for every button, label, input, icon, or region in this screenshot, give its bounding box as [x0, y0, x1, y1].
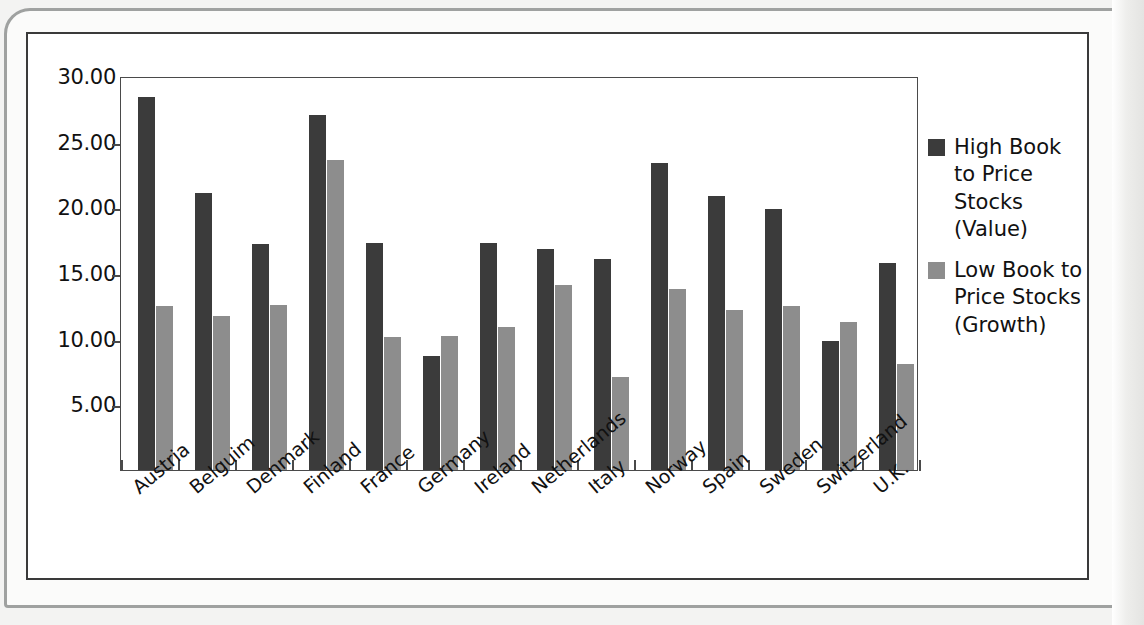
bar-value	[537, 249, 554, 470]
bar-growth	[327, 160, 344, 470]
page-edge-shadow	[1112, 0, 1144, 625]
bar-growth	[669, 289, 686, 470]
gray-swatch-icon	[928, 262, 945, 279]
bar-value	[651, 163, 668, 470]
bar-value	[366, 243, 383, 470]
bar-value	[252, 244, 269, 470]
dark-swatch-icon	[928, 139, 945, 156]
bar-value	[138, 97, 155, 470]
bar-value	[423, 356, 440, 470]
plot-area	[120, 77, 918, 471]
y-axis-tick-label: 20.00	[30, 196, 116, 220]
y-axis-tick-label: 25.00	[30, 131, 116, 155]
bar-chart: 5.0010.0015.0020.0025.0030.00 AustriaBel…	[28, 34, 1091, 582]
legend-label: High Book to Price Stocks (Value)	[954, 134, 1088, 243]
x-axis-tick-mark	[919, 460, 921, 471]
y-axis-tick-label: 15.00	[30, 262, 116, 286]
bar-growth	[726, 310, 743, 470]
y-axis-tick-label: 10.00	[30, 328, 116, 352]
bar-value	[309, 115, 326, 470]
bar-value	[195, 193, 212, 470]
x-axis-tick-mark	[634, 460, 636, 471]
y-axis-tick-mark	[112, 209, 121, 211]
y-axis-tick-label: 30.00	[30, 65, 116, 89]
legend-entry: High Book to Price Stocks (Value)	[928, 134, 1088, 243]
x-axis-tick-mark	[121, 460, 123, 471]
y-axis-tick-label: 5.00	[30, 393, 116, 417]
figure-frame: 5.0010.0015.0020.0025.0030.00 AustriaBel…	[26, 32, 1089, 580]
y-axis-tick-mark	[112, 144, 121, 146]
scanned-page: 5.0010.0015.0020.0025.0030.00 AustriaBel…	[0, 0, 1144, 625]
y-axis-labels: 5.0010.0015.0020.0025.0030.00	[28, 77, 116, 471]
bar-value	[708, 196, 725, 470]
y-axis-tick-mark	[112, 275, 121, 277]
y-axis-tick-mark	[112, 341, 121, 343]
legend-label: Low Book to Price Stocks (Growth)	[954, 257, 1088, 339]
y-axis-tick-mark	[112, 406, 121, 408]
chart-legend: High Book to Price Stocks (Value)Low Boo…	[928, 134, 1088, 353]
bar-growth	[555, 285, 572, 470]
bar-value	[765, 209, 782, 470]
legend-entry: Low Book to Price Stocks (Growth)	[928, 257, 1088, 339]
x-axis-labels: AustriaBelguimDenmarkFinlandFranceGerman…	[120, 471, 918, 581]
